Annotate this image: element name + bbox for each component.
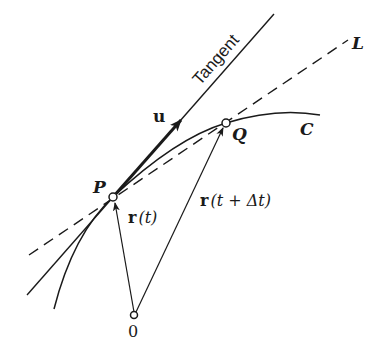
tangent-vector-diagram: Tangent u L P Q C 0 r(t) r(t + Δt) (0, 0, 385, 353)
curve-c-label: C (300, 119, 314, 139)
position-r-t-dt-label: r(t + Δt) (200, 191, 271, 210)
point-p-label: P (92, 177, 107, 197)
position-r-t-label: r(t) (128, 208, 157, 227)
position-r-t-vec: r (128, 208, 137, 227)
origin-marker (131, 312, 138, 319)
origin-label: 0 (128, 322, 138, 341)
position-r-t-dt-vec: r (200, 191, 209, 210)
point-q-label: Q (232, 124, 247, 144)
point-q-marker (222, 119, 230, 127)
secant-line-l (29, 40, 348, 255)
position-r-t-arg: (t) (138, 208, 157, 227)
unit-tangent-vector-u (113, 120, 181, 197)
point-p-marker (109, 193, 117, 201)
position-r-t-dt-arg: (t + Δt) (210, 191, 270, 210)
unit-vector-label: u (153, 106, 165, 126)
secant-line-label: L (351, 33, 364, 53)
